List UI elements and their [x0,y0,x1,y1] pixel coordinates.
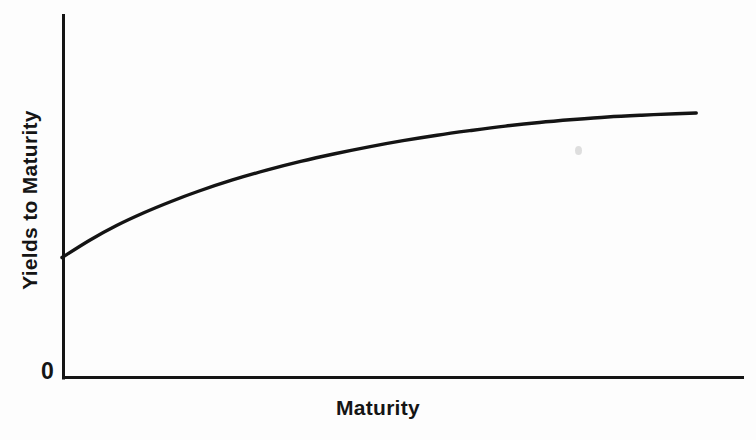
origin-label: 0 [41,358,54,385]
yield-curve-plot [0,0,756,440]
y-axis-title: Yields to Maturity [18,60,42,340]
chart-figure: 0 Maturity Yields to Maturity [0,0,756,440]
plot-background [0,0,756,440]
scan-speck-artifact [575,146,582,155]
x-axis-title: Maturity [0,396,756,420]
